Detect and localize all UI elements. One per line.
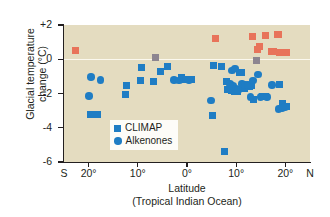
zero-reference-line <box>64 59 310 60</box>
x-axis-label: Latitude (Tropical Indian Ocean) <box>64 182 310 207</box>
data-point <box>72 47 79 54</box>
data-point <box>262 32 269 39</box>
data-point <box>137 77 144 84</box>
data-point <box>210 62 217 69</box>
data-point <box>123 82 130 89</box>
chart-legend: CLIMAP Alkenones <box>110 120 178 150</box>
y-tick-label: +2 <box>22 18 52 30</box>
y-tick-label: -6 <box>22 155 52 167</box>
data-point <box>256 43 263 50</box>
data-point <box>164 63 171 70</box>
data-point <box>122 91 129 98</box>
y-tick-mark <box>58 93 64 94</box>
data-point <box>212 35 219 42</box>
plot-area <box>64 25 310 162</box>
y-tick-label: -4 <box>22 121 52 133</box>
y-tick-mark <box>58 59 64 60</box>
data-point <box>97 76 105 84</box>
legend-label-alkenones: Alkenones <box>126 135 173 148</box>
legend-label-climap: CLIMAP <box>125 122 162 135</box>
x-axis-label-main: Latitude <box>168 182 205 194</box>
scatter-chart-figure: Glacial temperature change (°C) +20-2-4-… <box>0 0 330 217</box>
x-tick-label: N <box>290 167 330 179</box>
x-tick-label: 10° <box>216 167 256 179</box>
y-tick-mark <box>58 161 64 162</box>
data-point <box>87 73 95 81</box>
y-tick-label: 0 <box>22 52 52 64</box>
data-point <box>218 63 225 70</box>
legend-circle-icon <box>114 137 122 145</box>
data-point <box>138 64 145 71</box>
data-point <box>249 77 257 85</box>
data-point <box>94 111 101 118</box>
data-point <box>247 93 255 101</box>
legend-item-climap: CLIMAP <box>114 122 172 135</box>
y-tick-mark <box>58 127 64 128</box>
x-tick-label: 10° <box>118 167 158 179</box>
data-point <box>254 71 262 79</box>
data-point <box>268 81 276 89</box>
data-point <box>253 57 260 64</box>
legend-square-icon <box>114 125 121 132</box>
y-tick-mark <box>58 24 64 25</box>
data-point <box>209 112 216 119</box>
data-point <box>263 93 271 101</box>
data-point <box>283 49 290 56</box>
data-point <box>281 103 289 111</box>
data-point <box>207 97 215 105</box>
legend-item-alkenones: Alkenones <box>114 135 172 148</box>
x-axis-label-sub: (Tropical Indian Ocean) <box>132 195 241 207</box>
x-tick-label: 20° <box>69 167 109 179</box>
data-point <box>221 148 228 155</box>
y-tick-label: -2 <box>22 87 52 99</box>
data-point <box>152 54 159 61</box>
data-point <box>276 81 283 88</box>
data-point <box>150 78 157 85</box>
data-point <box>157 68 164 75</box>
x-tick-label: 0° <box>167 167 207 179</box>
data-point <box>85 92 93 100</box>
data-point <box>275 31 282 38</box>
y-axis-label-line1: Glacial temperature <box>24 28 36 120</box>
data-point <box>249 33 256 40</box>
data-point <box>185 76 193 84</box>
